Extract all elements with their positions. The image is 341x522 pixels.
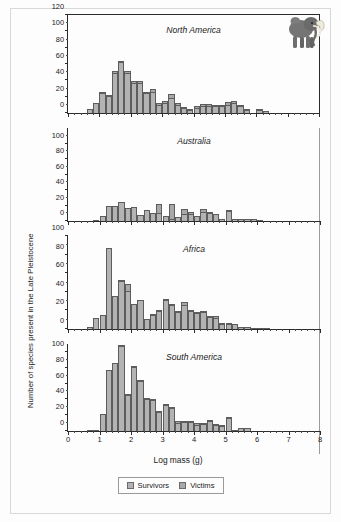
y-minor-tick: [66, 375, 68, 376]
x-minor-tick: [168, 113, 169, 115]
x-minor-tick: [112, 221, 113, 223]
x-minor-tick: [93, 221, 94, 223]
x-minor-tick: [200, 329, 201, 331]
x-minor-tick: [188, 431, 189, 433]
legend-swatch-survivors: [127, 482, 134, 489]
x-tick-label: 8: [318, 435, 322, 444]
x-tick-label: 2: [129, 435, 133, 444]
x-tick-mark: [320, 221, 321, 225]
x-minor-tick: [181, 113, 182, 115]
x-minor-tick: [144, 221, 145, 223]
legend-item-victims[interactable]: Victims: [179, 481, 214, 490]
x-minor-tick: [231, 113, 232, 115]
bar-victims: [150, 399, 156, 400]
y-minor-tick: [66, 150, 68, 151]
x-minor-tick: [156, 329, 157, 331]
x-minor-tick: [301, 221, 302, 223]
y-minor-tick: [66, 319, 68, 320]
y-tick-mark: [65, 96, 69, 97]
x-minor-tick: [295, 221, 296, 223]
bar-victims: [118, 61, 124, 63]
x-minor-tick: [219, 431, 220, 433]
y-tick-mark: [65, 291, 69, 292]
x-tick-mark: [320, 329, 321, 333]
x-tick-label: 4: [192, 435, 196, 444]
bar-victims: [99, 92, 105, 93]
bar-victims: [226, 417, 232, 418]
bar-victims: [168, 94, 174, 98]
bar-victims: [125, 284, 131, 291]
x-minor-tick: [125, 431, 126, 433]
bar-victims: [156, 204, 162, 213]
x-tick-mark: [163, 221, 164, 225]
x-minor-tick: [207, 221, 208, 223]
x-minor-tick: [200, 221, 201, 223]
x-minor-tick: [282, 431, 283, 433]
y-tick-mark: [65, 158, 69, 159]
x-minor-tick: [307, 329, 308, 331]
y-tick-mark: [65, 309, 69, 310]
bar-victims: [118, 345, 124, 347]
x-minor-tick: [181, 221, 182, 223]
y-minor-tick: [66, 22, 68, 23]
x-minor-tick: [306, 113, 307, 115]
x-tick-mark: [131, 329, 132, 333]
y-tick-mark: [65, 47, 69, 48]
x-tick-mark: [68, 329, 69, 333]
bar-victims: [163, 404, 169, 405]
x-minor-tick: [213, 329, 214, 331]
x-minor-tick: [250, 113, 251, 115]
x-minor-tick: [81, 113, 82, 115]
x-minor-tick: [244, 113, 245, 115]
x-minor-tick: [118, 329, 119, 331]
y-axis-title-container: Number of species present in the Late Pl…: [0, 0, 30, 460]
x-tick-mark: [257, 431, 258, 435]
y-minor-tick: [66, 282, 68, 283]
x-minor-tick: [106, 113, 107, 115]
x-minor-tick: [251, 329, 252, 331]
y-minor-tick: [66, 55, 68, 56]
y-tick-mark: [65, 398, 69, 399]
legend-item-survivors[interactable]: Survivors: [127, 481, 170, 490]
y-minor-tick: [66, 135, 68, 136]
y-minor-tick: [66, 104, 68, 105]
x-tick-mark: [100, 431, 101, 435]
x-tick-label: 0: [66, 435, 70, 444]
x-tick-mark: [131, 113, 132, 117]
x-tick-mark: [226, 431, 227, 435]
x-minor-tick: [87, 113, 88, 115]
x-tick-mark: [194, 113, 195, 117]
y-tick-mark: [65, 174, 69, 175]
y-minor-tick: [66, 71, 68, 72]
x-minor-tick: [137, 431, 138, 433]
y-tick-label: 0: [60, 316, 68, 325]
x-minor-tick: [281, 113, 282, 115]
x-minor-tick: [213, 221, 214, 223]
bar-victims: [137, 380, 143, 381]
bar-victims: [226, 210, 232, 211]
x-minor-tick: [150, 221, 151, 223]
x-tick-label: 7: [286, 435, 290, 444]
x-minor-tick: [156, 221, 157, 223]
y-tick-mark: [65, 79, 69, 80]
figure-root: Number of species present in the Late Pl…: [0, 0, 341, 522]
y-tick-mark: [65, 414, 69, 415]
x-minor-tick: [181, 431, 182, 433]
x-minor-tick: [112, 329, 113, 331]
x-minor-tick: [238, 431, 239, 433]
x-minor-tick: [118, 431, 119, 433]
bar-victims: [124, 71, 130, 73]
y-tick-mark: [65, 143, 69, 144]
x-minor-tick: [276, 329, 277, 331]
y-tick-mark: [65, 383, 69, 384]
y-tick-mark: [65, 205, 69, 206]
y-tick-label: 20: [56, 297, 68, 306]
x-minor-tick: [207, 329, 208, 331]
x-tick-label: 5: [223, 435, 227, 444]
y-tick-mark: [65, 235, 69, 236]
panel-title: Australia: [177, 136, 210, 146]
x-minor-tick: [187, 113, 188, 115]
y-tick-label: 40: [56, 278, 68, 287]
x-tick-mark: [163, 431, 164, 435]
panel-south-america: 020406080100012345678South America: [30, 344, 326, 454]
